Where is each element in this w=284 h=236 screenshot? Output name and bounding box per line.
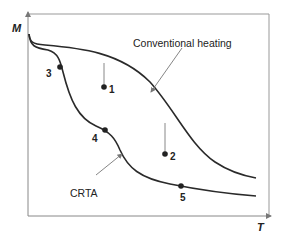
point-3-label: 3 [46,68,52,79]
point-5 [178,183,184,189]
conventional-heating-label: Conventional heating [133,37,232,49]
point-5-label: 5 [180,192,186,203]
point-1-label: 1 [109,84,115,95]
point-2 [162,151,168,157]
point-1 [101,84,107,90]
y-axis-label: M [12,22,22,34]
point-4 [102,127,108,133]
point-2-label: 2 [170,151,176,162]
crta-label: CRTA [70,187,98,199]
crta-arrow [96,154,122,175]
crta-curve [29,34,256,196]
diagram-canvas: M T Conventional heating CRTA 1 2 3 4 5 [0,0,284,236]
point-4-label: 4 [92,133,98,144]
x-axis-label: T [257,221,265,233]
conventional-heating-arrow [151,48,182,92]
point-3 [57,64,63,70]
conventional-heating-curve [29,34,256,178]
